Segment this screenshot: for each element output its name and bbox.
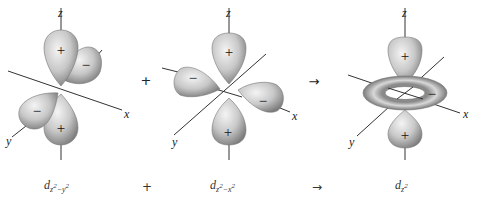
y-axis-label: y [171, 135, 178, 149]
orbital-diagram: z x y − + + − + z x y + − − [0, 0, 477, 205]
x-axis-label: x [123, 107, 130, 121]
x-axis-left [162, 68, 178, 72]
caption-sup: 2 [66, 182, 70, 190]
x-axis-label: x [462, 107, 469, 121]
lobe-sign: + [401, 48, 409, 64]
panel-dz2: z x y + − + [348, 6, 469, 160]
lobe-sign: − [428, 86, 436, 102]
caption-sup: 2 [404, 182, 408, 190]
z-axis-label: z [401, 6, 407, 20]
x-axis-label: x [291, 109, 298, 123]
caption-sup: 2 [232, 182, 236, 190]
arrow-operator: → [309, 74, 320, 89]
caption-arrow-operator: → [312, 180, 322, 194]
y-axis-front [12, 126, 26, 137]
lobe-sign: − [82, 57, 90, 73]
panel-dz2-minus-y2: z x y − + + − [5, 6, 130, 160]
lobe-sign: − [189, 70, 197, 86]
x-axis-right [280, 108, 290, 112]
plus-operator: + [141, 73, 152, 88]
caption-dz2: dz2 [395, 178, 408, 194]
caption-dz2-minus-y2: dz2−y2 [44, 178, 69, 194]
z-axis-label: z [57, 6, 63, 20]
y-axis-label: y [5, 134, 12, 148]
lobe-sign: − [33, 103, 41, 119]
lobe-sign: − [259, 93, 267, 109]
panel-dz2-minus-x2: z x y + − − + [162, 6, 298, 160]
lobe-sign: + [57, 42, 65, 58]
lobe-sign: + [401, 127, 409, 143]
y-axis-label: y [348, 135, 355, 149]
caption-plus-operator: + [142, 180, 152, 194]
lobe-sign: + [225, 44, 233, 60]
lobe-sign: + [224, 124, 232, 140]
lobe-sign: + [57, 120, 65, 136]
z-axis-label: z [225, 6, 231, 20]
caption-dz2-minus-x2: dz2−x2 [210, 178, 235, 194]
